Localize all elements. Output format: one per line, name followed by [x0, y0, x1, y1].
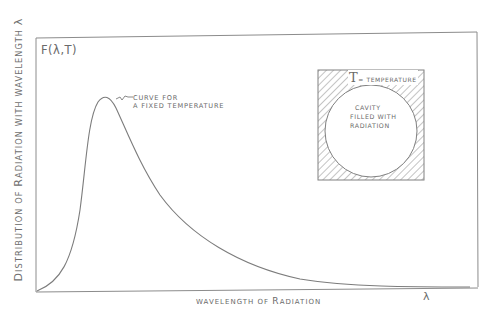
- cavity-label: CAVITY FILLED WITH RADIATION: [350, 103, 412, 130]
- function-label: F(λ,T): [41, 43, 77, 57]
- annotation-squiggle: [116, 96, 133, 100]
- cavity-line: FILLED WITH: [350, 112, 412, 121]
- curve-annotation: CURVE FOR A FIXED TEMPERATURE: [133, 94, 224, 110]
- y-axis-label: DISTRIBUTION OF RADIATION WITH WAVELENGT…: [12, 22, 25, 282]
- curve-annotation-line1: CURVE FOR: [133, 94, 224, 102]
- x-axis-symbol: λ: [423, 290, 430, 303]
- cavity-line: RADIATION: [350, 121, 412, 130]
- temperature-label: T= TEMPERATURE: [348, 70, 418, 85]
- cavity-line: CAVITY: [350, 103, 412, 112]
- x-axis-label: WAVELENGTH OF RADIATION: [196, 296, 321, 306]
- curve-annotation-line2: A FIXED TEMPERATURE: [133, 102, 224, 110]
